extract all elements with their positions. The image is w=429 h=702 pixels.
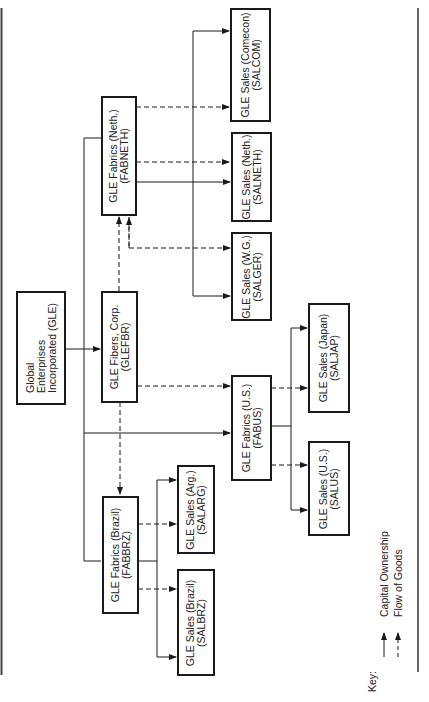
node-gle-label: Global Enterprises Incorporated (GLE) <box>25 303 58 393</box>
node-saljap-label: GLE Sales (Japan) (SALJAP) <box>318 314 340 403</box>
node-glefbr: GLE Fibers, Corp. (GLEFBR) <box>101 291 138 403</box>
node-fabbrz-label: GLE Fabrics (Brazil) (FABBRZ) <box>110 508 132 603</box>
node-fabus-label: GLE Fabrics (U.S.) (FABUS) <box>241 384 263 473</box>
node-salus-label: GLE Sales (U.S.) (SALUS) <box>318 448 340 529</box>
node-salarg: GLE Sales (Arg.) (SALARG) <box>177 465 215 554</box>
node-salneth-label: GLE Sales (Neth.) (SALNETH) <box>241 134 263 219</box>
node-saljap: GLE Sales (Japan) (SALJAP) <box>308 303 350 413</box>
node-gle: Global Enterprises Incorporated (GLE) <box>16 291 66 405</box>
node-fabneth-label: GLE Fabrics (Neth.) (FABNETH) <box>108 109 130 202</box>
node-salarg-label: GLE Sales (Arg.) (SALARG) <box>185 470 207 549</box>
node-salger: GLE Sales (W.G.) (SALGER) <box>231 232 272 321</box>
node-fabus: GLE Fabrics (U.S.) (FABUS) <box>231 375 272 481</box>
node-fabneth: GLE Fabrics (Neth.) (FABNETH) <box>101 96 137 216</box>
node-salneth: GLE Sales (Neth.) (SALNETH) <box>231 132 272 222</box>
node-salbrz: GLE Sales (Brazil) (SALBRZ) <box>177 569 215 676</box>
key-arrows <box>384 633 398 657</box>
key-flow-of-goods-label: Flow of Goods <box>392 549 404 617</box>
key-capital-ownership-label: Capital Ownership <box>378 531 390 617</box>
node-glefbr-label: GLE Fibers, Corp. (GLEFBR) <box>109 305 131 390</box>
node-salcom: GLE Sales (Comecon) (SALCOM) <box>230 8 271 122</box>
node-salbrz-label: GLE Sales (Brazil) (SALBRZ) <box>185 579 207 665</box>
node-salcom-label: GLE Sales (Comecon) (SALCOM) <box>240 12 262 117</box>
node-salger-label: GLE Sales (W.G.) (SALGER) <box>241 235 263 318</box>
key-title: Key: <box>366 671 378 692</box>
node-salus: GLE Sales (U.S.) (SALUS) <box>308 441 350 536</box>
node-fabbrz: GLE Fabrics (Brazil) (FABBRZ) <box>102 496 139 614</box>
